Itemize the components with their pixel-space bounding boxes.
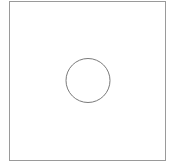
diagram-canvas	[0, 0, 175, 168]
center-circle	[66, 59, 110, 103]
square-frame	[10, 2, 166, 161]
diagram-svg	[0, 0, 175, 168]
